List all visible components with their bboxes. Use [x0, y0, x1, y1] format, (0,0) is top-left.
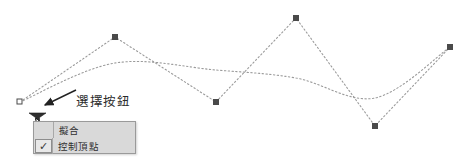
menu-divider [52, 138, 53, 154]
menu-item-label-fit: 擬合 [59, 123, 79, 137]
check-icon: ✓ [39, 141, 48, 152]
drawing-canvas[interactable]: 選擇按鈕 擬合 ✓ 控制頂點 [0, 0, 468, 167]
menu-item-control-vertex[interactable]: ✓ 控制頂點 [34, 138, 135, 154]
menu-item-label-control-vertex: 控制頂點 [58, 139, 99, 153]
menu-divider [53, 122, 54, 138]
menu-check-slot-fit [34, 122, 53, 138]
menu-item-fit[interactable]: 擬合 [34, 122, 135, 138]
menu-check-slot-control-vertex[interactable]: ✓ [35, 139, 52, 153]
context-menu[interactable]: 擬合 ✓ 控制頂點 [33, 121, 136, 154]
